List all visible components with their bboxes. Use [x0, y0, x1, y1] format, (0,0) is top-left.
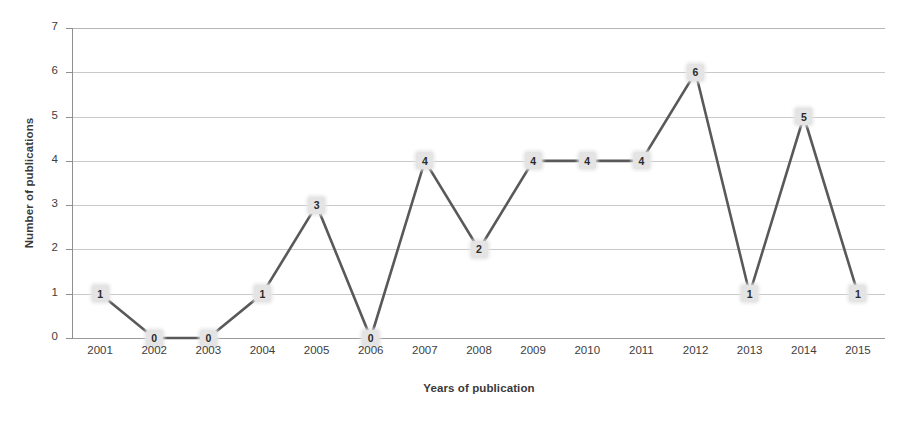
x-tick-label-2005: 2005 — [287, 344, 347, 356]
x-tick-label-2004: 2004 — [232, 344, 292, 356]
y-tick-mark-6 — [66, 72, 73, 73]
data-point-2004: 1 — [254, 285, 271, 302]
x-tick-label-2001: 2001 — [70, 344, 130, 356]
y-tick-label-1: 1 — [18, 286, 58, 298]
x-tick-label-2012: 2012 — [666, 344, 726, 356]
y-tick-mark-4 — [66, 161, 73, 162]
x-tick-label-2014: 2014 — [774, 344, 834, 356]
y-tick-mark-2 — [66, 249, 73, 250]
y-tick-label-2: 2 — [18, 241, 58, 253]
y-tick-label-3: 3 — [18, 197, 58, 209]
publications-per-year-line-chart: Number of publications 01234567 10013042… — [0, 0, 912, 423]
y-tick-mark-0 — [66, 338, 73, 339]
data-point-2015: 1 — [849, 285, 866, 302]
y-tick-mark-3 — [66, 205, 73, 206]
y-tick-label-0: 0 — [18, 330, 58, 342]
x-tick-label-2008: 2008 — [449, 344, 509, 356]
x-tick-label-2009: 2009 — [503, 344, 563, 356]
y-tick-label-6: 6 — [18, 64, 58, 76]
x-axis-title: Years of publication — [73, 382, 885, 394]
x-tick-label-2002: 2002 — [124, 344, 184, 356]
y-tick-label-5: 5 — [18, 109, 58, 121]
data-point-2011: 4 — [633, 152, 650, 169]
series-line — [73, 28, 885, 338]
y-tick-label-4: 4 — [18, 153, 58, 165]
data-point-2009: 4 — [525, 152, 542, 169]
data-point-2001: 1 — [92, 285, 109, 302]
data-point-2010: 4 — [579, 152, 596, 169]
y-tick-mark-7 — [66, 28, 73, 29]
y-tick-mark-5 — [66, 117, 73, 118]
x-tick-label-2007: 2007 — [395, 344, 455, 356]
x-tick-label-2003: 2003 — [178, 344, 238, 356]
y-tick-label-7: 7 — [18, 20, 58, 32]
data-point-2012: 6 — [687, 64, 704, 81]
x-tick-label-2006: 2006 — [341, 344, 401, 356]
x-tick-label-2015: 2015 — [828, 344, 888, 356]
x-tick-label-2011: 2011 — [611, 344, 671, 356]
data-point-2008: 2 — [471, 241, 488, 258]
x-tick-label-2013: 2013 — [720, 344, 780, 356]
plot-area: 100130424446151 — [73, 28, 885, 338]
x-tick-label-2010: 2010 — [557, 344, 617, 356]
y-tick-mark-1 — [66, 294, 73, 295]
data-point-2007: 4 — [416, 152, 433, 169]
data-point-2014: 5 — [795, 108, 812, 125]
data-point-2005: 3 — [308, 197, 325, 214]
data-point-2013: 1 — [741, 285, 758, 302]
